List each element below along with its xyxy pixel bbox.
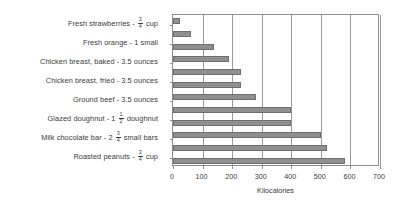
x-tick-label-100: 100	[196, 172, 208, 181]
category-label-text: Fresh strawberries -	[68, 19, 137, 28]
x-tick-label-600: 600	[343, 172, 355, 181]
bar-chicken-breast-fried	[173, 69, 241, 75]
category-label-text: Milk chocolate bar -	[41, 133, 108, 142]
fraction: 12	[119, 112, 124, 124]
x-tick-300	[262, 165, 263, 169]
x-tick-0	[173, 165, 174, 169]
category-label-whole: 1	[111, 114, 117, 123]
category-label-suffix: doughnut	[125, 114, 158, 123]
gridline-x-100	[203, 15, 204, 165]
bar-chicken-breast-baked	[173, 44, 214, 50]
x-tick-label-700: 700	[373, 172, 385, 181]
category-label-text: Roasted peanuts -	[73, 152, 136, 161]
category-label: Ground beef - 3.5 ounces	[73, 93, 158, 107]
fraction: 34	[138, 150, 143, 162]
fraction-denominator: 4	[138, 23, 143, 29]
bar-fresh-strawberries	[173, 18, 180, 24]
bar-roasted-peanuts	[173, 158, 345, 164]
gridline-x-700	[380, 15, 381, 165]
category-label-column: Fresh strawberries - 34 cupFresh orange …	[0, 14, 164, 166]
y-tick-7	[170, 158, 174, 159]
y-tick-6	[170, 139, 174, 140]
y-tick-5	[170, 120, 174, 121]
bar-glazed-doughnut	[173, 107, 291, 113]
x-tick-200	[232, 165, 233, 169]
gridline-x-300	[262, 15, 263, 165]
fraction: 34	[116, 131, 121, 143]
y-tick-3	[170, 82, 174, 83]
x-tick-400	[291, 165, 292, 169]
bar-fresh-orange	[173, 31, 191, 37]
plot-area	[172, 14, 379, 166]
fraction-denominator: 4	[116, 137, 121, 143]
fraction-denominator: 4	[138, 156, 143, 162]
bar-chicken-breast-fried-2	[173, 82, 241, 88]
category-label: Roasted peanuts - 34 cup	[73, 150, 158, 164]
gridline-x-600	[350, 15, 351, 165]
category-label: Chicken breast, baked - 3.5 ounces	[40, 55, 158, 69]
x-tick-label-500: 500	[314, 172, 326, 181]
y-tick-0	[170, 25, 174, 26]
x-tick-label-200: 200	[225, 172, 237, 181]
bar-ground-beef	[173, 94, 256, 100]
category-label: Fresh strawberries - 34 cup	[68, 17, 158, 31]
category-label-text: Ground beef - 3.5 ounces	[73, 95, 158, 104]
category-label-suffix: small bars	[122, 133, 158, 142]
x-tick-label-0: 0	[170, 172, 174, 181]
category-label: Chicken breast, fried - 3.5 ounces	[46, 74, 158, 88]
gridline-x-200	[232, 15, 233, 165]
x-tick-100	[203, 165, 204, 169]
x-tick-600	[350, 165, 351, 169]
y-tick-4	[170, 101, 174, 102]
bar-glazed-doughnut-2	[173, 120, 291, 126]
category-label-suffix: cup	[144, 19, 158, 28]
y-tick-2	[170, 63, 174, 64]
bar-chicken-breast-baked-2	[173, 56, 229, 62]
fraction-denominator: 2	[119, 118, 124, 124]
category-label-suffix: cup	[144, 152, 158, 161]
y-tick-1	[170, 44, 174, 45]
bar-chart: Fresh strawberries - 34 cupFresh orange …	[0, 0, 413, 207]
category-label-whole: 2	[108, 133, 114, 142]
category-label-text: Chicken breast, fried - 3.5 ounces	[46, 76, 158, 85]
x-tick-label-400: 400	[284, 172, 296, 181]
gridline-x-400	[291, 15, 292, 165]
gridline-x-500	[321, 15, 322, 165]
fraction: 34	[138, 17, 143, 29]
category-label: Milk chocolate bar - 2 34 small bars	[41, 131, 158, 145]
x-tick-700	[380, 165, 381, 169]
x-axis-title: Kilocalories	[172, 186, 379, 195]
x-tick-500	[321, 165, 322, 169]
category-label-text: Fresh orange - 1 small	[83, 38, 158, 47]
category-label: Fresh orange - 1 small	[83, 36, 158, 50]
x-tick-label-300: 300	[255, 172, 267, 181]
category-label: Glazed doughnut - 1 12 doughnut	[48, 112, 158, 126]
bar-milk-chocolate-bar	[173, 132, 321, 138]
category-label-text: Glazed doughnut -	[48, 114, 112, 123]
bar-milk-chocolate-bar-2	[173, 145, 327, 151]
category-label-text: Chicken breast, baked - 3.5 ounces	[40, 57, 158, 66]
